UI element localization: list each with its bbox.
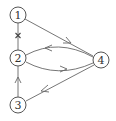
edge-1-2-blocked bbox=[16, 23, 21, 50]
node-label: 2 bbox=[15, 52, 22, 65]
node-1: 1 bbox=[10, 7, 26, 23]
node-4: 4 bbox=[93, 52, 109, 68]
node-label: 1 bbox=[15, 9, 22, 22]
node-2: 2 bbox=[10, 50, 26, 66]
node-label: 4 bbox=[98, 54, 105, 67]
node-label: 3 bbox=[15, 99, 22, 112]
graph-diagram: 1 2 3 4 bbox=[0, 0, 116, 121]
edge-3-to-2 bbox=[15, 66, 21, 97]
node-3: 3 bbox=[10, 97, 26, 113]
